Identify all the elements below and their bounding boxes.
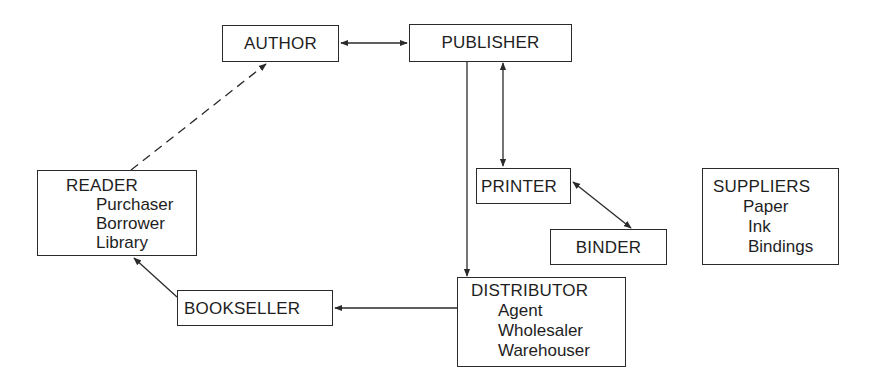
node-reader-label: READER [66, 176, 138, 195]
node-distributor-item: Agent [498, 301, 542, 320]
node-distributor-label: DISTRIBUTOR [471, 281, 588, 300]
edge-printer-binder [573, 182, 631, 228]
book-trade-diagram: AUTHOR PUBLISHER PRINTER BINDER READER P… [0, 0, 874, 386]
node-reader-item: Borrower [96, 214, 165, 233]
edge-reader-author-dashed [131, 64, 266, 170]
edge-bookseller-reader [134, 258, 177, 297]
node-distributor-item: Warehouser [498, 341, 590, 360]
node-suppliers: SUPPLIERS Paper Ink Bindings [702, 168, 839, 265]
node-binder-label: BINDER [551, 238, 666, 257]
node-reader-item: Purchaser [96, 195, 173, 214]
node-suppliers-label: SUPPLIERS [713, 177, 810, 196]
node-printer-label: PRINTER [481, 177, 557, 196]
node-author-label: AUTHOR [223, 34, 338, 53]
node-reader: READER Purchaser Borrower Library [37, 170, 197, 256]
node-reader-item: Library [96, 233, 148, 252]
node-bookseller-label: BOOKSELLER [184, 299, 300, 318]
node-author: AUTHOR [222, 25, 339, 62]
node-bookseller: BOOKSELLER [177, 290, 333, 326]
node-distributor-item: Wholesaler [498, 321, 583, 340]
node-suppliers-item: Paper [743, 197, 788, 216]
node-printer: PRINTER [476, 168, 571, 204]
node-publisher-label: PUBLISHER [410, 33, 571, 52]
node-publisher: PUBLISHER [409, 24, 572, 62]
node-binder: BINDER [550, 229, 667, 265]
node-suppliers-item: Bindings [748, 237, 813, 256]
node-suppliers-item: Ink [748, 217, 771, 236]
node-distributor: DISTRIBUTOR Agent Wholesaler Warehouser [457, 277, 626, 367]
